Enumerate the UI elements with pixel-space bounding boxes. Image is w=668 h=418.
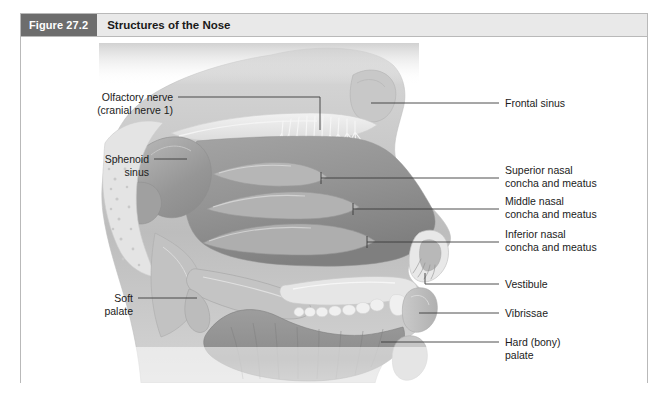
tooth bbox=[316, 307, 328, 317]
superior-concha-label-line1: Superior nasal bbox=[505, 164, 573, 176]
inferior-concha-label-line2: concha and meatus bbox=[505, 241, 597, 253]
sphenoid-sinus-label-line2: sinus bbox=[124, 166, 149, 178]
tooth bbox=[370, 299, 384, 311]
olfactory-nerve-label-line1: Olfactory nerve bbox=[102, 91, 173, 103]
olfactory-nerve-label-line2: (cranial nerve 1) bbox=[97, 104, 173, 116]
upper-lip bbox=[402, 288, 437, 332]
superior-concha-label-line2: concha and meatus bbox=[505, 177, 597, 189]
inferior-concha-label-line1: Inferior nasal bbox=[505, 228, 566, 240]
nose-anatomy-illustration: Olfactory nerve (cranial nerve 1) Spheno… bbox=[21, 37, 647, 383]
soft-palate-label-line2: palate bbox=[104, 305, 133, 317]
figure-header: Figure 27.2 Structures of the Nose bbox=[21, 14, 647, 37]
tooth bbox=[329, 306, 341, 316]
middle-concha-label-line1: Middle nasal bbox=[505, 195, 564, 207]
upper-lip-body bbox=[402, 288, 437, 332]
tooth bbox=[342, 305, 355, 315]
label-vestibule: Vestibule bbox=[425, 273, 548, 290]
vibrissae-label: Vibrissae bbox=[505, 307, 548, 319]
figure-number-badge: Figure 27.2 bbox=[21, 14, 97, 36]
sphenoid-sinus-label-line1: Sphenoid bbox=[105, 153, 150, 165]
tooth bbox=[305, 307, 316, 316]
nasal-vestibule-region bbox=[409, 230, 448, 282]
label-vibrissae: Vibrissae bbox=[419, 307, 548, 319]
figure-frame: Figure 27.2 Structures of the Nose bbox=[20, 13, 648, 383]
frontal-sinus-label-line1: Frontal sinus bbox=[505, 97, 565, 109]
vestibule-label: Vestibule bbox=[505, 278, 548, 290]
bottom-edge-fade bbox=[21, 347, 647, 383]
figure-title: Structures of the Nose bbox=[97, 14, 230, 36]
tooth bbox=[356, 302, 370, 313]
tooth bbox=[294, 308, 304, 317]
hard-palate-label-line2: palate bbox=[505, 349, 534, 361]
figure-canvas: Olfactory nerve (cranial nerve 1) Spheno… bbox=[21, 37, 647, 383]
middle-concha-label-line2: concha and meatus bbox=[505, 208, 597, 220]
soft-palate-label-line1: Soft bbox=[114, 292, 133, 304]
hard-palate-label-line1: Hard (bony) bbox=[505, 336, 560, 348]
